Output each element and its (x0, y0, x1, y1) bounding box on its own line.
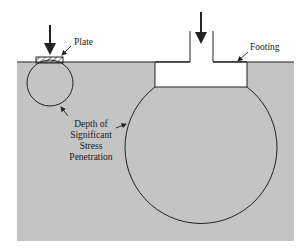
depth-label-line1: Depth of (74, 119, 108, 129)
depth-label-line2: Significant (70, 130, 112, 140)
plate-leader (62, 46, 71, 55)
stress-penetration-diagram: Plate Footing Depth of Significant Stres… (0, 0, 307, 249)
footing-label: Footing (250, 42, 280, 52)
plate-label: Plate (74, 37, 93, 47)
soil-region (17, 62, 294, 241)
depth-label-line3: Stress (80, 141, 103, 151)
depth-label-line4: Penetration (69, 152, 113, 162)
footing-leader (238, 52, 248, 61)
